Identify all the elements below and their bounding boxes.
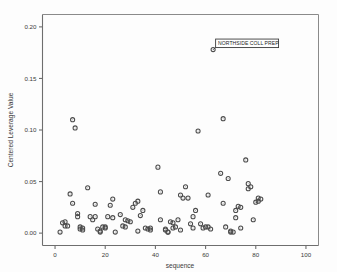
annotation-layer: NORTHSIDE COLL PREP (213, 39, 279, 50)
x-tick-label: 40 (152, 251, 159, 258)
x-tick-label: 80 (252, 251, 259, 258)
y-tick-label: 0.00 (24, 229, 37, 236)
y-tick-label: 0.15 (24, 75, 37, 82)
y-tick-label: 0.10 (24, 126, 37, 133)
annotation-label: NORTHSIDE COLL PREP (218, 40, 279, 46)
y-tick-label: 0.05 (24, 178, 37, 185)
x-tick-label: 100 (301, 251, 312, 258)
x-tick-label: 60 (202, 251, 209, 258)
x-axis-title: sequence (166, 262, 195, 270)
x-tick-label: 20 (102, 251, 109, 258)
scatter-plot-figure: 0.000.050.100.150.20 020406080100 Center… (0, 0, 337, 272)
y-tick-label: 0.20 (24, 23, 37, 30)
x-tick-label: 0 (53, 251, 57, 258)
chart-canvas: 0.000.050.100.150.20 020406080100 Center… (0, 0, 337, 272)
y-axis-title: Centered Leverage Value (7, 92, 15, 167)
figure-background (0, 0, 337, 272)
